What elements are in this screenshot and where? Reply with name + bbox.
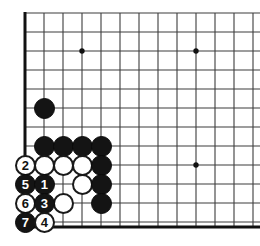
move-number: 6 xyxy=(22,196,29,209)
move-stone-5: 5 xyxy=(15,174,36,195)
go-board-diagram: 2516374 xyxy=(0,0,260,246)
stone-white xyxy=(72,174,93,195)
move-number: 4 xyxy=(41,215,48,228)
stone-black xyxy=(91,155,112,176)
stone-black xyxy=(91,136,112,157)
hoshi-upper-right xyxy=(193,48,198,53)
move-number: 5 xyxy=(22,177,29,190)
move-stone-6: 6 xyxy=(15,193,36,214)
move-number: 3 xyxy=(41,196,48,209)
move-number: 7 xyxy=(22,215,29,228)
stone-white xyxy=(53,155,74,176)
stone-black xyxy=(72,136,93,157)
hoshi-lower-right xyxy=(193,162,198,167)
stone-white xyxy=(53,193,74,214)
move-stone-1: 1 xyxy=(34,174,55,195)
stone-black xyxy=(53,136,74,157)
move-stone-2: 2 xyxy=(15,155,36,176)
move-number: 1 xyxy=(41,177,48,190)
move-stone-4: 4 xyxy=(34,212,55,233)
move-number: 2 xyxy=(22,158,29,171)
move-stone-7: 7 xyxy=(15,212,36,233)
stone-white xyxy=(34,155,55,176)
stone-black xyxy=(91,193,112,214)
move-stone-3: 3 xyxy=(34,193,55,214)
stone-black xyxy=(34,136,55,157)
stone-black xyxy=(34,98,55,119)
stone-white xyxy=(72,155,93,176)
stone-black xyxy=(91,174,112,195)
hoshi-upper-left xyxy=(79,48,84,53)
